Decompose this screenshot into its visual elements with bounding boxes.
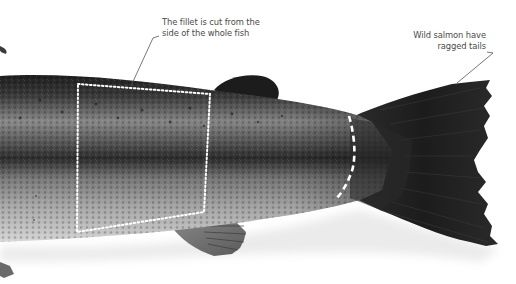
left-fin-fragment	[0, 46, 7, 54]
fillet-annotation: The fillet is cut from the side of the w…	[162, 17, 260, 39]
tail-annotation-line1: Wild salmon have	[413, 30, 486, 41]
salmon-photo: The fillet is cut from the side of the w…	[0, 0, 516, 284]
fillet-annotation-line1: The fillet is cut from the	[162, 17, 260, 28]
fillet-annotation-line2: side of the whole fish	[162, 28, 260, 39]
fillet-leader-line	[131, 36, 159, 86]
tail-leader-line	[457, 52, 493, 83]
tail-annotation: Wild salmon have ragged tails	[413, 30, 486, 52]
bottom-left-fin	[0, 262, 14, 278]
tail-annotation-line2: ragged tails	[413, 41, 486, 52]
